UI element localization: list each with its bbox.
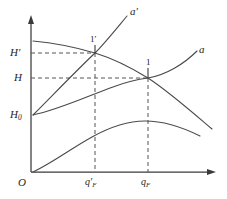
curve-label-a: a bbox=[199, 44, 205, 55]
x-axis-arrow-icon bbox=[207, 169, 216, 175]
y-axis-label-h: H bbox=[14, 72, 22, 83]
y-axis-label-h-zero: H0 bbox=[10, 109, 22, 122]
plot-area bbox=[0, 0, 227, 199]
x-axis-label-q-prime-f-sub: F bbox=[92, 181, 96, 188]
curve-label-a-main: a bbox=[199, 43, 205, 55]
efficiency-curve bbox=[33, 121, 200, 172]
y-axis-label-h-zero-sub: 0 bbox=[18, 113, 22, 122]
characteristic-curve-figure: H′ H H0 O q′F qF a′ a 1′ 1 bbox=[0, 0, 227, 199]
x-axis-label-q-f-sub: F bbox=[146, 181, 150, 188]
y-axis-label-h-main: H bbox=[14, 71, 22, 83]
x-axis-label-q-prime-f: q′F bbox=[85, 177, 96, 189]
origin-label-text: O bbox=[18, 176, 26, 188]
curves-group bbox=[33, 16, 212, 172]
operating-point-label-1-prime-mark: ′ bbox=[95, 34, 97, 44]
curve-label-a-prime-mark: ′ bbox=[136, 5, 138, 17]
pump-head-curve bbox=[33, 41, 212, 129]
operating-point-label-1-prime: 1′ bbox=[90, 35, 96, 44]
guide-lines-group bbox=[31, 53, 148, 172]
origin-label: O bbox=[18, 177, 26, 188]
operating-point-label-1: 1 bbox=[146, 58, 151, 67]
x-axis-label-q-f: qF bbox=[141, 177, 150, 189]
y-axis-label-h-prime-mark: ′ bbox=[18, 46, 20, 58]
y-axis-label-h-prime-main: H bbox=[10, 46, 18, 58]
y-axis-label-h-zero-main: H bbox=[10, 108, 18, 120]
axis-group bbox=[28, 15, 216, 175]
curve-label-a-prime: a′ bbox=[130, 6, 138, 17]
y-axis-arrow-icon bbox=[28, 15, 34, 24]
y-axis-label-h-prime: H′ bbox=[10, 47, 20, 58]
operating-point-label-1-main: 1 bbox=[146, 57, 151, 67]
